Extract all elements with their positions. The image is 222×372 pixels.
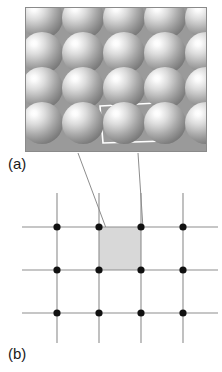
unit-cell-shaded-box (99, 227, 141, 270)
atom-sphere (144, 102, 186, 144)
atom-sphere (103, 102, 145, 144)
atom-sphere (62, 102, 104, 144)
panel-a-label: (a) (8, 155, 26, 172)
lattice-grid (0, 180, 222, 345)
panel-b-lattice-diagram: Unit cell (0, 180, 222, 345)
panel-b-label: (b) (8, 345, 26, 362)
atom-sphere (25, 102, 63, 144)
sphere-array (26, 8, 206, 151)
atom-sphere (185, 102, 207, 144)
panel-a-sphere-model (25, 7, 207, 152)
